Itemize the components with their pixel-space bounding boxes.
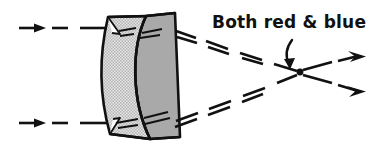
figure-canvas: Both red & blue (0, 0, 381, 147)
refracted-ray-top-blue (177, 37, 263, 64)
focal-point (297, 69, 304, 76)
arrowhead-diverging-lower (347, 86, 366, 97)
incoming-rays-group (19, 24, 107, 128)
incoming-ray-bottom (19, 119, 107, 128)
arrowhead-incoming-bottom (34, 119, 46, 128)
refracted-ray-bottom-blue (175, 94, 263, 127)
lens-assembly (101, 13, 180, 139)
arrowhead-incoming-top (34, 24, 46, 33)
refracted-ray-top-red (176, 31, 297, 71)
diverging-ray-upper (303, 51, 366, 70)
annotation-label: Both red & blue (212, 12, 366, 32)
annotation-pointer-arrow (284, 40, 295, 70)
diverging-rays-group (303, 51, 366, 97)
optics-ray-diagram: Both red & blue (0, 0, 381, 147)
diverging-ray-lower (303, 75, 366, 97)
refracted-rays-group (175, 31, 297, 127)
incoming-ray-top (19, 24, 107, 33)
refracted-ray-bottom-red (176, 75, 297, 121)
